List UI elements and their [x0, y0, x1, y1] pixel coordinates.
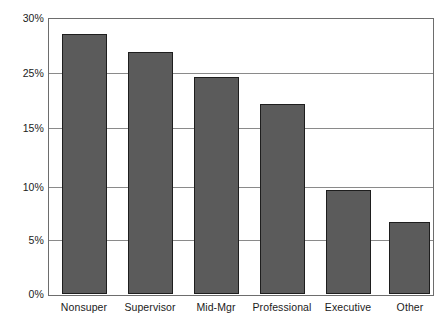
y-tick-label: 25% [4, 68, 44, 79]
y-tick-label: 0% [4, 289, 44, 300]
bar-chart: 30% 25% 15% 10% 5% 0% Nonsuper Superviso… [0, 0, 444, 327]
y-tick-label: 10% [4, 182, 44, 193]
x-axis: Nonsuper Supervisor Mid-Mgr Professional… [0, 301, 444, 323]
bar-supervisor [128, 52, 173, 294]
y-tick-label: 30% [4, 13, 44, 24]
bar-professional [260, 104, 305, 294]
y-tick-label: 15% [4, 123, 44, 134]
bar-other [389, 222, 430, 294]
y-axis: 30% 25% 15% 10% 5% 0% [0, 0, 44, 327]
bar-nonsuper [62, 34, 107, 294]
bar-executive [326, 190, 371, 294]
x-tick-label-other: Other [350, 301, 444, 314]
y-tick-label: 5% [4, 235, 44, 246]
bar-mid-mgr [194, 77, 239, 294]
